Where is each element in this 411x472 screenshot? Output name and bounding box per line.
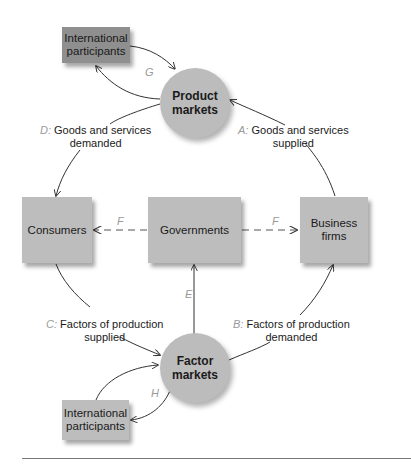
node-label: Product <box>172 89 217 103</box>
international-participants-top: International participants <box>62 27 130 63</box>
flow-e-label: E <box>185 288 192 300</box>
node-label: participants <box>67 45 126 58</box>
consumers-node: Consumers <box>22 197 92 263</box>
node-label: markets <box>172 368 218 382</box>
flow-f-left-label: F <box>117 215 124 227</box>
arrow-h-in <box>96 365 158 400</box>
node-label: Factor <box>177 354 214 368</box>
international-participants-bottom: International participants <box>62 400 129 440</box>
flow-h-label: H <box>151 387 159 399</box>
business-firms-node: Business firms <box>300 197 368 263</box>
flow-f-right-label: F <box>272 215 279 227</box>
node-label: markets <box>172 103 218 117</box>
product-markets-node: Product markets <box>160 68 230 138</box>
node-label: Consumers <box>28 224 87 237</box>
governments-node: Governments <box>148 197 241 263</box>
node-label: International <box>64 32 127 45</box>
node-label: International <box>64 407 127 420</box>
node-label: Business <box>311 217 358 230</box>
flow-d-label: D: Goods and services demanded <box>40 124 151 150</box>
flow-a-label: A: Goods and services supplied <box>238 124 349 150</box>
flow-b-label: B: Factors of production demanded <box>233 318 350 344</box>
flow-c-label: C: Factors of production supplied <box>46 318 163 344</box>
flow-g-label: G <box>145 66 154 78</box>
arrow-d <box>56 104 160 196</box>
node-label: participants <box>66 420 125 433</box>
node-label: firms <box>322 230 347 243</box>
node-label: Governments <box>160 224 229 237</box>
arrow-b <box>229 265 333 360</box>
bottom-rule <box>22 458 411 459</box>
factor-markets-node: Factor markets <box>160 333 230 403</box>
